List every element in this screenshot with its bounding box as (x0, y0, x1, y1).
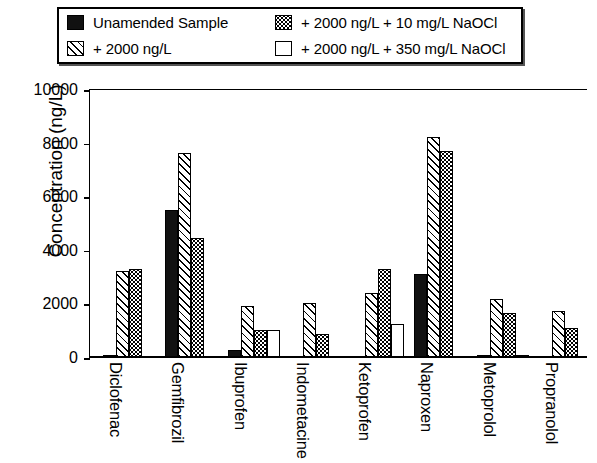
bar (165, 210, 178, 357)
bar (378, 269, 391, 357)
bar-group (290, 303, 342, 357)
bar (254, 330, 267, 357)
bar-group (539, 311, 591, 357)
bar (391, 324, 404, 358)
bar (316, 334, 329, 357)
bar (414, 274, 427, 357)
y-axis-title: Concentration (ng/L) (45, 21, 67, 321)
y-tick-mark (84, 251, 90, 253)
bar (303, 303, 316, 357)
bar (427, 137, 440, 357)
bar (116, 271, 129, 357)
legend-entry: + 2000 ng/L + 350 mg/L NaOCl (275, 41, 515, 56)
legend-label: + 2000 ng/L (93, 41, 172, 56)
legend-entry: Unamended Sample (67, 15, 275, 30)
legend-entry: + 2000 ng/L + 10 mg/L NaOCl (275, 15, 515, 30)
y-tick-mark (84, 304, 90, 306)
legend-row: Unamended Sample + 2000 ng/L + 10 mg/L N… (59, 9, 521, 35)
x-axis-label: Ibuprofen (232, 362, 249, 430)
x-axis-label: Propranolol (543, 362, 560, 444)
y-tick-label: 0 (0, 350, 78, 366)
bar (178, 153, 191, 357)
y-tick-mark (84, 90, 90, 92)
bar-group (477, 299, 529, 357)
x-axis-line (89, 356, 587, 358)
x-axis-label: Naproxen (419, 362, 436, 432)
x-axis-label: Indometacine (294, 362, 311, 459)
y-tick-label: 4000 (0, 243, 78, 259)
y-tick-label: 2000 (0, 296, 78, 312)
legend-label: + 2000 ng/L + 10 mg/L NaOCl (301, 15, 497, 30)
y-tick-mark (84, 358, 90, 360)
bar-group (165, 153, 217, 357)
y-tick-label: 6000 (0, 189, 78, 205)
bar (129, 269, 142, 357)
bar (365, 293, 378, 357)
y-tick-label: 8000 (0, 136, 78, 152)
x-axis-label: Ketoprofen (357, 362, 374, 441)
legend-entry: + 2000 ng/L (67, 41, 275, 56)
bar-group (228, 306, 280, 357)
y-tick-mark (84, 197, 90, 199)
white-swatch-icon (275, 41, 292, 56)
x-axis-label: Metoprolol (481, 362, 498, 437)
bar-group (103, 269, 155, 357)
hatched-swatch-icon (67, 41, 84, 56)
bar (552, 311, 565, 357)
bar (490, 299, 503, 357)
plot-area: 0200040006000800010000 (89, 89, 587, 357)
bar-group (352, 269, 404, 357)
bar (241, 306, 254, 357)
y-tick-mark (84, 144, 90, 146)
chart-legend: Unamended Sample + 2000 ng/L + 10 mg/L N… (57, 7, 523, 64)
legend-label: Unamended Sample (93, 15, 228, 30)
x-axis-label: Gemfibrozil (170, 362, 187, 443)
bar (503, 313, 516, 357)
dotted-swatch-icon (275, 15, 292, 30)
legend-row: + 2000 ng/L + 2000 ng/L + 350 mg/L NaOCl (59, 35, 521, 61)
bar (565, 328, 578, 357)
x-axis-label: Diclofenac (108, 362, 125, 437)
solid-black-swatch-icon (67, 15, 84, 30)
y-tick-label: 10000 (0, 82, 78, 98)
bar (267, 330, 280, 357)
bar (440, 151, 453, 357)
bar (191, 238, 204, 357)
legend-label: + 2000 ng/L + 350 mg/L NaOCl (301, 41, 506, 56)
bar-group (414, 137, 466, 357)
